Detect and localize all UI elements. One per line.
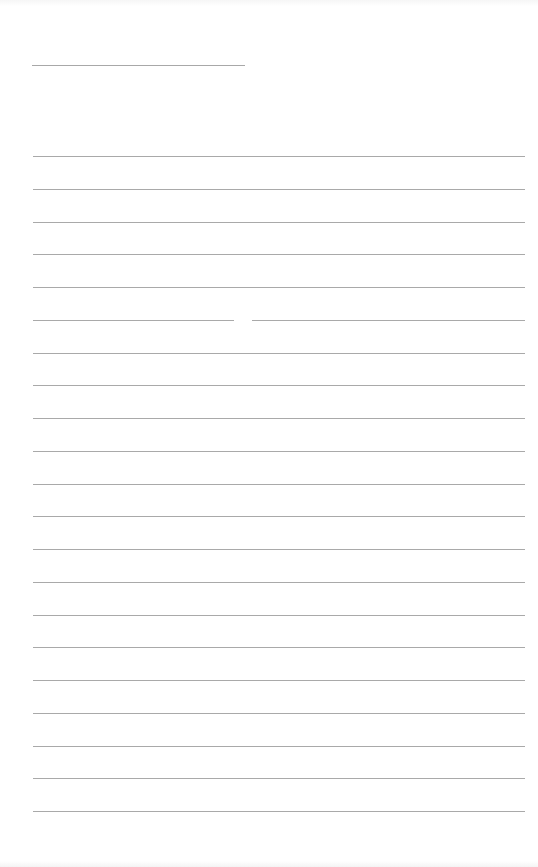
- ruled-line: [33, 647, 525, 648]
- ruled-line: [33, 385, 525, 386]
- ruled-line: [33, 516, 525, 517]
- ruled-line: [33, 582, 525, 583]
- ruled-line: [33, 778, 525, 779]
- ruled-line: [33, 549, 525, 550]
- ruled-line: [33, 353, 525, 354]
- ruled-line: [33, 451, 525, 452]
- ruled-line: [33, 713, 525, 714]
- ruled-line: [33, 189, 525, 190]
- ruled-line: [33, 254, 525, 255]
- ruled-line: [33, 811, 525, 812]
- ruled-line: [33, 287, 525, 288]
- ruled-line: [33, 680, 525, 681]
- ruled-line: [33, 484, 525, 485]
- ruled-line: [33, 418, 525, 419]
- ruled-line: [33, 746, 525, 747]
- lined-paper-page: [0, 0, 538, 867]
- ruled-line: [33, 615, 525, 616]
- ruled-line: [33, 320, 525, 321]
- title-underline: [32, 65, 245, 66]
- ruled-line: [33, 222, 525, 223]
- ruled-line: [33, 156, 525, 157]
- line-gap: [234, 320, 252, 322]
